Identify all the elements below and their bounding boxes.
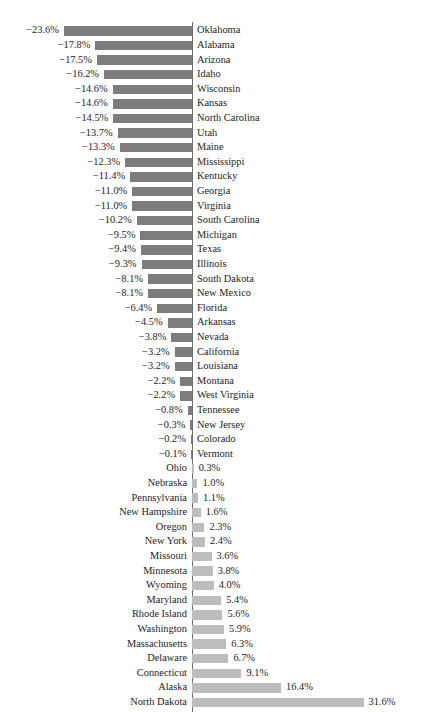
bar-row: −13.3%Maine	[0, 141, 422, 156]
bar	[192, 596, 221, 605]
bar-row: Rhode Island5.6%	[0, 608, 422, 623]
bar-value-label: 9.1%	[246, 666, 268, 681]
bar-category-label: Arizona	[197, 53, 230, 68]
bar-row: −13.7%Utah	[0, 126, 422, 141]
bar-category-label: Kansas	[197, 96, 227, 111]
bar	[192, 654, 228, 663]
bar-value-label: 6.3%	[231, 637, 253, 652]
bar	[97, 55, 192, 64]
bar-row: −9.4%Texas	[0, 243, 422, 258]
bar-value-label: −3.2%	[142, 359, 170, 374]
bar-row: Minnesota3.8%	[0, 564, 422, 579]
bar-value-label: −0.1%	[159, 447, 187, 462]
bar	[125, 158, 192, 167]
bar-category-label: South Carolina	[197, 213, 260, 228]
bar	[148, 274, 192, 283]
bar-value-label: 1.1%	[203, 491, 225, 506]
bar	[95, 41, 192, 50]
bar-value-label: −2.2%	[148, 388, 176, 403]
bar-row: −8.1%South Dakota	[0, 272, 422, 287]
bar-value-label: −0.2%	[158, 432, 186, 447]
bar-value-label: −16.2%	[66, 67, 99, 82]
bar-value-label: −13.7%	[80, 126, 113, 141]
bar-value-label: −11.0%	[95, 184, 127, 199]
bar-row: Missouri3.6%	[0, 550, 422, 565]
bar-value-label: 31.6%	[369, 695, 396, 710]
bar-category-label: Montana	[197, 374, 234, 389]
bar	[113, 85, 192, 94]
bar	[191, 450, 192, 459]
bar-value-label: 6.7%	[233, 651, 255, 666]
bar-row: −0.8%Tennessee	[0, 404, 422, 419]
bar-row: −14.5%North Carolina	[0, 112, 422, 127]
bar-row: Washington5.9%	[0, 623, 422, 638]
bar-category-label: Wyoming	[146, 578, 187, 593]
bar-value-label: −2.2%	[148, 374, 176, 389]
bar-row: −11.0%Georgia	[0, 185, 422, 200]
bar	[190, 420, 192, 429]
bar-row: −0.2%Colorado	[0, 433, 422, 448]
bar	[192, 464, 194, 473]
bar-row: −2.2%West Virginia	[0, 389, 422, 404]
bar-value-label: −0.8%	[155, 403, 183, 418]
bar	[130, 172, 192, 181]
bar-value-label: 16.4%	[286, 680, 313, 695]
bar-row: −11.0%Virginia	[0, 199, 422, 214]
bar-category-label: Louisiana	[197, 359, 238, 374]
bar-row: Delaware6.7%	[0, 652, 422, 667]
bar-value-label: −6.4%	[125, 301, 153, 316]
bar-value-label: −8.1%	[116, 286, 144, 301]
bar	[192, 537, 205, 546]
bar-category-label: Nevada	[197, 330, 229, 345]
bar-value-label: −9.3%	[109, 257, 137, 272]
bar-value-label: −10.2%	[99, 213, 132, 228]
bar-value-label: −13.3%	[82, 140, 115, 155]
bar-value-label: 3.8%	[218, 564, 240, 579]
bar-value-label: −11.4%	[93, 169, 125, 184]
bar	[132, 187, 192, 196]
bar-value-label: −0.3%	[158, 418, 186, 433]
bar-category-label: New Jersey	[197, 418, 245, 433]
bar-category-label: North Carolina	[197, 111, 260, 126]
bar-row: −11.4%Kentucky	[0, 170, 422, 185]
bar-category-label: Maine	[197, 140, 224, 155]
bar-row: −17.5%Arizona	[0, 53, 422, 68]
bar-row: Connecticut9.1%	[0, 666, 422, 681]
bar-row: −10.2%South Carolina	[0, 214, 422, 229]
bar-row: North Dakota31.6%	[0, 696, 422, 711]
bar-category-label: Arkansas	[197, 315, 236, 330]
bar-row: −16.2%Idaho	[0, 68, 422, 83]
bar-category-label: Georgia	[197, 184, 230, 199]
bar-category-label: Mississippi	[197, 155, 244, 170]
bar-value-label: −3.2%	[142, 345, 170, 360]
bar-value-label: −9.4%	[108, 242, 136, 257]
bar-value-label: −3.8%	[139, 330, 167, 345]
bar	[113, 114, 192, 123]
bar-row: Ohio0.3%	[0, 462, 422, 477]
bar	[192, 639, 226, 648]
bar-row: −14.6%Wisconsin	[0, 82, 422, 97]
bar-row: −4.5%Arkansas	[0, 316, 422, 331]
bar-category-label: Massachusetts	[127, 637, 187, 652]
bar-row: −0.3%New Jersey	[0, 418, 422, 433]
bar-category-label: Vermont	[197, 447, 233, 462]
bar	[192, 479, 197, 488]
bar	[192, 610, 222, 619]
bar-row: −17.8%Alabama	[0, 39, 422, 54]
bar-category-label: Florida	[197, 301, 227, 316]
bar-row: Alaska16.4%	[0, 681, 422, 696]
bar-category-label: Michigan	[197, 228, 237, 243]
bar	[192, 698, 364, 707]
bar-row: −2.2%Montana	[0, 374, 422, 389]
bar-category-label: Pennsylvania	[132, 491, 187, 506]
bar-row: −9.5%Michigan	[0, 228, 422, 243]
bar-value-label: 2.3%	[209, 520, 231, 535]
bar-row: −0.1%Vermont	[0, 447, 422, 462]
bar	[180, 377, 192, 386]
bar-category-label: North Dakota	[130, 695, 187, 710]
bar-row: −3.2%California	[0, 345, 422, 360]
bar	[192, 625, 224, 634]
bar-category-label: Washington	[138, 622, 187, 637]
bar-row: Massachusetts6.3%	[0, 637, 422, 652]
bar-row: −14.6%Kansas	[0, 97, 422, 112]
